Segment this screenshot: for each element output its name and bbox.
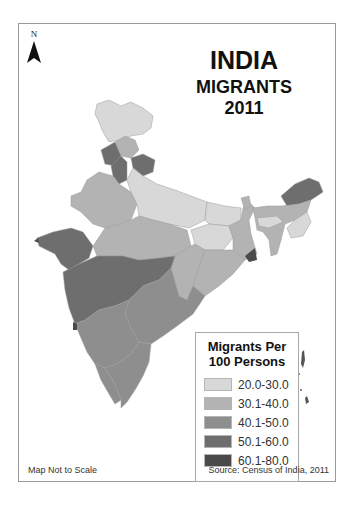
legend-label: 50.1-60.0 [238,435,289,449]
region-bihar [205,202,241,226]
legend-label: 20.0-30.0 [238,378,289,392]
legend-swatch [204,435,232,448]
map-subtitle: MIGRANTS [169,77,319,98]
legend-item: 20.0-30.0 [204,375,298,394]
region-arunachal [281,178,323,206]
north-arrow-icon [27,41,41,63]
legend-title-line2: 100 Persons [196,354,298,369]
scale-note: Map Not to Scale [28,465,97,475]
legend: Migrants Per 100 Persons 20.0-30.0 30.1-… [195,332,299,482]
legend-label: 40.1-50.0 [238,416,289,430]
map-year: 2011 [169,98,319,119]
map-title: INDIA [169,46,319,75]
legend-label: 30.1-40.0 [238,397,289,411]
north-label: N [24,29,44,39]
region-andaman-small [305,396,309,404]
legend-title: Migrants Per 100 Persons [196,339,298,369]
legend-item: 30.1-40.0 [204,394,298,413]
region-andaman [301,350,305,368]
legend-item: 50.1-60.0 [204,432,298,451]
region-jammu-kashmir [95,100,153,142]
legend-swatch [204,378,232,391]
legend-item: 40.1-50.0 [204,413,298,432]
legend-title-line1: Migrants Per [196,339,298,354]
source-note: Source: Census of India, 2011 [209,465,329,475]
region-nicobar-2 [300,389,302,391]
north-arrow: N [24,29,44,63]
legend-swatch [204,416,232,429]
map-frame: N INDIA MIGRANTS 2011 Migrants Per 100 P… [18,23,336,482]
legend-swatch [204,397,232,410]
